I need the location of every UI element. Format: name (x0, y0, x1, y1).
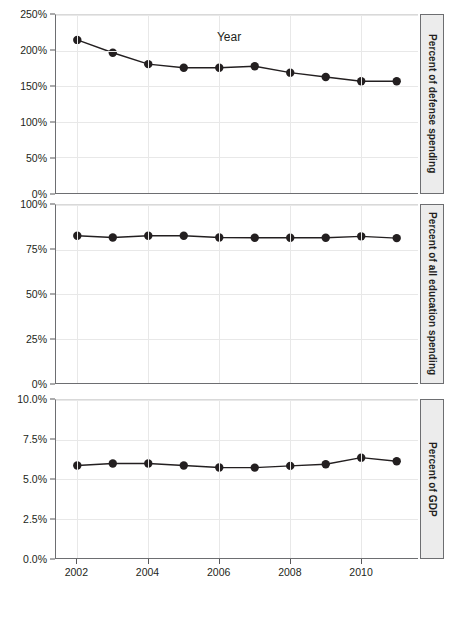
gridline-vertical (361, 400, 362, 558)
gridline-horizontal (56, 400, 418, 401)
gridline-horizontal (56, 86, 418, 87)
x-tick-label: 2008 (278, 566, 301, 578)
y-tick-label: 10.0% (17, 394, 47, 405)
data-point-marker (322, 234, 330, 242)
gridline-vertical (148, 400, 149, 558)
gridline-vertical (148, 205, 149, 383)
gridline-horizontal (56, 339, 418, 340)
panel-3-right-pad (444, 399, 458, 559)
y-tick-label: 25% (26, 334, 47, 345)
gridline-horizontal (56, 440, 418, 441)
x-tick-label: 2004 (136, 566, 159, 578)
gridline-vertical (219, 400, 220, 558)
gridline-horizontal (56, 51, 418, 52)
gridline-vertical (290, 205, 291, 383)
data-point-marker (251, 62, 259, 70)
x-tick-label: 2010 (349, 566, 372, 578)
plot-area-panel-3 (55, 399, 418, 559)
data-point-marker (180, 232, 188, 240)
data-point-marker (109, 233, 117, 241)
data-point-marker (393, 234, 401, 242)
y-tick-label: 0% (32, 379, 47, 390)
gridline-horizontal (56, 294, 418, 295)
y-tick-label: 5.0% (23, 474, 47, 485)
chart-panel-gdp: 0.0%2.5%5.0%7.5%10.0% Percent of GDP (0, 399, 458, 559)
x-tick-mark (219, 559, 220, 564)
gridline-horizontal (56, 479, 418, 480)
x-axis: 20022004200620082010 (0, 559, 458, 618)
data-point-marker (393, 77, 401, 85)
data-point-marker (322, 460, 330, 468)
y-tick-label: 7.5% (23, 434, 47, 445)
x-tick-label: 2006 (207, 566, 230, 578)
chart-panel-education-spending: 0%25%50%75%100% Percent of all education… (0, 204, 458, 384)
x-tick-label: 2002 (65, 566, 88, 578)
data-point-marker (322, 73, 330, 81)
gridline-vertical (361, 205, 362, 383)
y-axis-panel-2: 0%25%50%75%100% (0, 204, 55, 384)
series-line (77, 40, 396, 81)
data-point-marker (393, 457, 401, 465)
gridline-vertical (290, 400, 291, 558)
data-point-marker (180, 63, 188, 71)
x-tick-mark (290, 559, 291, 564)
data-point-marker (109, 459, 117, 467)
strip-label-panel-3: Percent of GDP (420, 399, 444, 559)
gridline-vertical (77, 400, 78, 558)
series-line (77, 236, 396, 238)
plot-area-panel-2 (55, 204, 418, 384)
y-tick-label: 75% (26, 244, 47, 255)
y-axis-panel-3: 0.0%2.5%5.0%7.5%10.0% (0, 399, 55, 559)
data-point-marker (180, 461, 188, 469)
y-tick-label: 150% (20, 81, 47, 92)
gridline-horizontal (56, 122, 418, 123)
x-tick-mark (148, 559, 149, 564)
strip-label-text-panel-1: Percent of defense spending (427, 34, 438, 173)
data-point-marker (251, 463, 259, 471)
panel-2-right-pad (444, 204, 458, 384)
gridline-vertical (77, 205, 78, 383)
y-tick-label: 250% (20, 9, 47, 20)
gridline-horizontal (56, 205, 418, 206)
gridline-horizontal (56, 519, 418, 520)
multi-panel-line-chart: 0%50%100%150%200%250% Percent of defense… (0, 0, 458, 618)
series-line (77, 458, 396, 468)
gridline-vertical (219, 205, 220, 383)
y-tick-label: 100% (20, 117, 47, 128)
x-axis-title: Year (0, 30, 458, 44)
strip-label-panel-2: Percent of all education spending (420, 204, 444, 384)
y-tick-label: 200% (20, 45, 47, 56)
strip-label-text-panel-2: Percent of all education spending (427, 212, 438, 375)
data-point-marker (251, 234, 259, 242)
y-tick-label: 100% (20, 199, 47, 210)
y-tick-label: 50% (26, 289, 47, 300)
gridline-horizontal (56, 157, 418, 158)
gridline-horizontal (56, 250, 418, 251)
y-tick-label: 2.5% (23, 514, 47, 525)
y-tick-label: 50% (26, 153, 47, 164)
x-tick-mark (361, 559, 362, 564)
gridline-horizontal (56, 15, 418, 16)
strip-label-text-panel-3: Percent of GDP (427, 442, 438, 517)
x-tick-mark (76, 559, 77, 564)
